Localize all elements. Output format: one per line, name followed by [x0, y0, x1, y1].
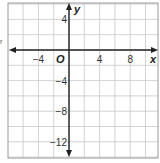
axes [9, 3, 158, 157]
x-tick-label: 8 [127, 54, 133, 65]
x-tick-label: −4 [33, 54, 45, 65]
stray-mark: r [0, 38, 3, 45]
origin-label: O [56, 53, 65, 65]
x-tick-label: 4 [97, 54, 103, 65]
x-axis-label: x [149, 53, 157, 65]
y-tick-label: −4 [56, 76, 68, 87]
y-tick-label: −8 [56, 106, 68, 117]
coordinate-plane: −4484−4−8−12 x y O r [0, 0, 160, 163]
grid-lines [8, 3, 158, 158]
y-axis-label: y [73, 3, 81, 15]
y-tick-label: 4 [61, 14, 67, 25]
y-tick-label: −12 [50, 137, 67, 148]
